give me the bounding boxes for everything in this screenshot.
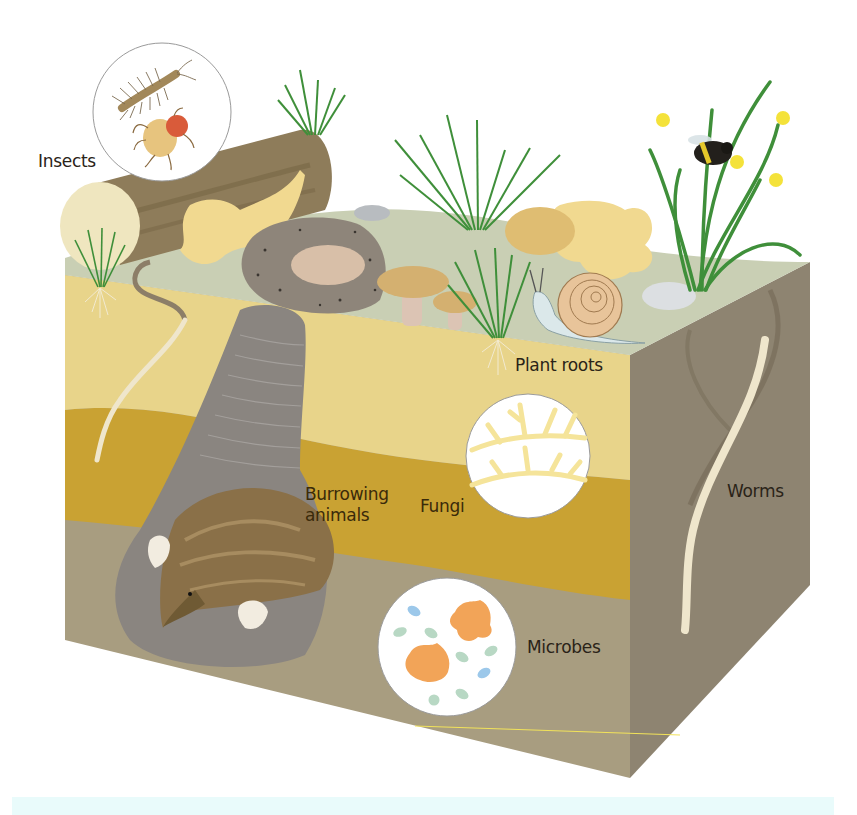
pebble-grey-1 [354, 205, 390, 221]
label-insects: Insects [38, 151, 96, 172]
soil-ecosystem-diagram [0, 0, 857, 815]
label-burrowing-animals-line1: Burrowing [305, 484, 389, 505]
label-worms: Worms [727, 481, 784, 502]
pebble-yellow [505, 207, 575, 255]
microbes-callout [378, 578, 516, 716]
label-fungi: Fungi [420, 496, 464, 517]
label-plant-roots: Plant roots [515, 355, 603, 376]
insects-callout [93, 43, 231, 181]
fungi-callout [466, 394, 590, 518]
label-burrowing-animals-line2: animals [305, 505, 369, 526]
caption-band [12, 797, 834, 815]
bumblebee [688, 135, 733, 165]
label-microbes: Microbes [527, 637, 600, 658]
grass-tuft-log [278, 70, 345, 135]
